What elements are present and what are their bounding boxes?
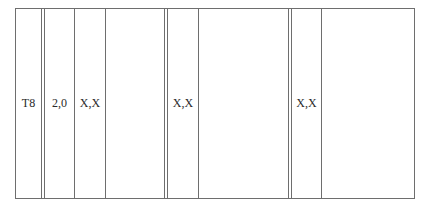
- cell-label-t8: T8: [16, 96, 41, 110]
- divider-3: [105, 8, 106, 199]
- divider-double-1a: [41, 8, 42, 199]
- divider-7: [321, 8, 322, 199]
- divider-5: [198, 8, 199, 199]
- cell-label-xx-1: X,X: [75, 96, 105, 110]
- divider-double-4a: [164, 8, 165, 199]
- cell-label-xx-2: X,X: [168, 96, 198, 110]
- cell-label-2-0: 2,0: [45, 96, 74, 110]
- divider-double-6a: [288, 8, 289, 199]
- cell-label-xx-3: X,X: [292, 96, 321, 110]
